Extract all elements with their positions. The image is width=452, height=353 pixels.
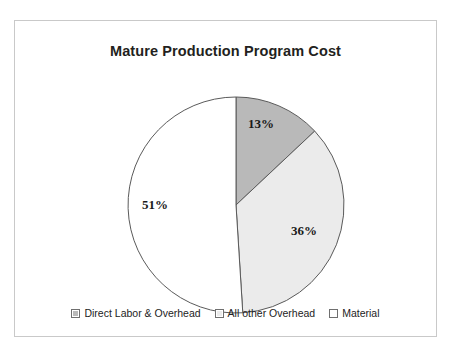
chart-legend: Direct Labor & OverheadAll other Overhea…: [15, 307, 436, 319]
legend-swatch-fill: [72, 310, 79, 317]
legend-item-material[interactable]: Material: [329, 307, 379, 319]
pie-data-label-direct-labor-overhead: 13%: [248, 116, 274, 131]
legend-swatch-material: [329, 309, 338, 318]
pie-slice-material[interactable]: [128, 97, 243, 313]
legend-label: Material: [342, 307, 379, 319]
legend-item-direct-labor-overhead[interactable]: Direct Labor & Overhead: [71, 307, 200, 319]
legend-item-all-other-overhead[interactable]: All other Overhead: [215, 307, 316, 319]
legend-label: All other Overhead: [228, 307, 316, 319]
pie-data-label-group: 13%36%51%: [142, 116, 317, 238]
legend-label: Direct Labor & Overhead: [84, 307, 200, 319]
legend-swatch-fill: [216, 310, 223, 317]
pie-data-label-all-other-overhead: 36%: [291, 223, 317, 238]
legend-swatch-fill: [330, 310, 337, 317]
pie-chart-area: 13%36%51%: [15, 21, 438, 338]
pie-slice-direct-labor-overhead[interactable]: [236, 97, 315, 205]
pie-data-label-material: 51%: [142, 197, 168, 212]
pie-slice-group: [128, 97, 344, 313]
legend-swatch-direct-labor-overhead: [71, 309, 80, 318]
pie-slice-all-other-overhead[interactable]: [236, 131, 344, 313]
chart-title: Mature Production Program Cost: [15, 43, 436, 59]
pie-chart-svg: 13%36%51%: [15, 21, 438, 338]
chart-card: Mature Production Program Cost 13%36%51%…: [14, 20, 437, 337]
legend-swatch-all-other-overhead: [215, 309, 224, 318]
